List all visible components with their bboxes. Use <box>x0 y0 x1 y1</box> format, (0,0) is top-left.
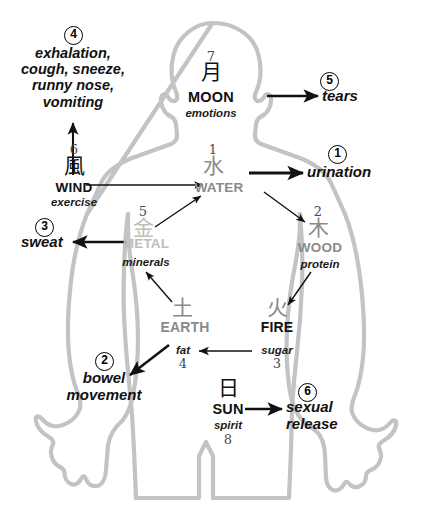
output-bowel-line1: bowel <box>66 370 141 387</box>
marker-4: 4 <box>64 26 83 45</box>
element-earth-kanji: 土 <box>172 297 193 321</box>
output-bowel-line2: movement <box>66 387 141 404</box>
element-moon-kanji: 月 <box>201 61 222 85</box>
output-sexual-release: sexual release <box>286 399 338 433</box>
element-wind-kanji: 風 <box>64 155 85 179</box>
output-exhalation-line4: vomiting <box>21 94 125 110</box>
element-moon-subtitle: emotions <box>185 107 236 120</box>
element-sun-kanji: 日 <box>218 377 239 401</box>
output-tears: tears <box>322 88 358 105</box>
seven-elements-body-diagram: 4 exhalation, cough, sneeze, runny nose,… <box>0 0 425 530</box>
element-fire-subtitle: sugar <box>261 344 292 357</box>
element-earth-name: EARTH <box>160 320 209 336</box>
element-sun-subtitle: spirit <box>214 419 242 432</box>
element-water-kanji: 水 <box>203 155 224 179</box>
output-exhalation-line3: runny nose, <box>21 77 125 93</box>
element-sun-number: 8 <box>224 433 232 448</box>
output-exhalation-line1: exhalation, <box>21 45 125 61</box>
element-metal-name: METAL <box>123 236 170 251</box>
element-wood-subtitle: protein <box>301 258 340 271</box>
element-earth-subtitle: fat <box>176 344 190 357</box>
output-bowel-movement: bowel movement <box>66 370 141 404</box>
element-moon-name: MOON <box>188 89 234 105</box>
output-sexual-line1: sexual <box>286 399 338 416</box>
element-wind-name: WIND <box>56 180 93 195</box>
element-earth-number: 4 <box>179 357 187 372</box>
element-water-name: WATER <box>195 180 244 195</box>
output-sexual-line2: release <box>286 416 338 433</box>
marker-1: 1 <box>328 145 347 164</box>
element-wind-subtitle: exercise <box>51 196 97 209</box>
output-urination: urination <box>307 164 371 181</box>
element-fire-number: 3 <box>273 357 281 372</box>
element-sun-name: SUN <box>212 401 243 417</box>
output-sweat: sweat <box>21 234 63 251</box>
element-fire-kanji: 火 <box>267 297 288 321</box>
output-exhalation: exhalation, cough, sneeze, runny nose, v… <box>21 45 125 110</box>
element-metal-subtitle: minerals <box>122 256 169 269</box>
element-wood-name: WOOD <box>298 240 342 255</box>
element-wood-kanji: 木 <box>308 217 329 241</box>
output-exhalation-line2: cough, sneeze, <box>21 61 125 77</box>
element-fire-name: FIRE <box>261 320 294 336</box>
